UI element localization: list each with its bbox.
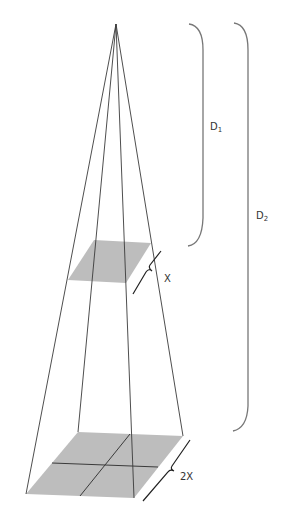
d2-label-sub: 2	[264, 215, 268, 223]
d1-brace	[188, 24, 203, 246]
d1-label-sub: 1	[218, 126, 222, 134]
d2-brace	[233, 23, 248, 431]
two-x-label: 2X	[180, 471, 193, 482]
small-square	[68, 240, 151, 283]
d1-label-text: D	[210, 121, 218, 132]
d2-label-text: D	[256, 210, 264, 221]
pyramid-diagram	[0, 0, 289, 515]
d2-label: D2	[256, 210, 268, 223]
x-label: X	[164, 273, 171, 284]
d1-label: D1	[210, 121, 222, 134]
